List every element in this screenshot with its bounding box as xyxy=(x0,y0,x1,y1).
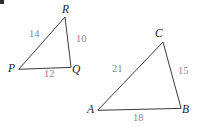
vertex-label-r: R xyxy=(62,4,69,16)
triangle-abc-path xyxy=(98,42,181,110)
vertex-label-p: P xyxy=(8,63,15,75)
vertex-label-c: C xyxy=(155,28,163,40)
side-label-ab: 18 xyxy=(133,113,144,124)
side-label-pr: 14 xyxy=(29,29,40,40)
side-label-pq: 12 xyxy=(44,69,55,80)
similar-triangles-figure: P Q R 14 10 12 A B C 21 15 18 xyxy=(0,0,199,133)
side-label-rq: 10 xyxy=(76,34,87,45)
vertex-label-q: Q xyxy=(72,64,80,76)
triangle-pqr-path xyxy=(19,17,71,69)
side-label-cb: 15 xyxy=(178,66,189,77)
vertex-label-b: B xyxy=(182,104,189,116)
triangle-pqr-outline xyxy=(19,17,71,69)
vertex-label-a: A xyxy=(87,104,94,116)
triangle-abc-outline xyxy=(98,42,181,110)
triangles-drawing xyxy=(0,0,199,133)
side-label-ac: 21 xyxy=(112,64,123,75)
